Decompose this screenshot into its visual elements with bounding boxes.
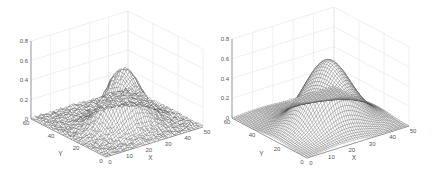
z-tick-label: 0.2 [221,95,230,101]
x-axis-label: X [352,154,357,161]
surface-mesh [31,67,203,157]
z-tick-label: 0.8 [221,36,230,42]
surface-plot-left: 00.20.40.60.8010203040500204060XY [20,11,211,165]
z-tick-label: 0.2 [20,97,29,103]
y-tick-label: 60 [23,120,30,126]
y-tick-label: 0 [300,159,304,165]
y-tick-label: 0 [99,158,103,164]
y-tick-label: 40 [249,132,256,138]
x-tick-label: 10 [328,154,335,160]
y-axis-label: Y [259,150,264,157]
x-tick-label: 20 [348,147,355,153]
x-tick-label: 30 [369,141,376,147]
x-tick-label: 30 [165,141,172,147]
z-tick-label: 0.6 [221,56,230,62]
x-tick-label: 40 [184,135,191,141]
x-tick-label: 50 [410,128,417,134]
z-tick-label: 0.6 [20,58,29,64]
x-axis-label: X [148,154,153,161]
z-tick-label: 0.8 [20,38,29,44]
x-tick-label: 40 [389,134,396,140]
x-tick-label: 20 [145,147,152,153]
surface-plot-right: 00.20.40.60.8010203040500204060XY [221,7,417,166]
y-axis-label: Y [58,150,63,157]
z-tick-label: 0.4 [20,77,29,83]
y-tick-label: 60 [224,119,231,125]
y-tick-label: 40 [48,133,55,139]
x-tick-label: 0 [108,159,112,165]
x-tick-label: 50 [204,129,211,135]
y-tick-label: 20 [73,145,80,151]
z-tick-label: 0.4 [221,76,230,82]
surface-mesh [232,59,409,157]
y-tick-label: 20 [274,146,281,152]
x-tick-label: 0 [309,160,313,166]
x-tick-label: 10 [126,153,133,159]
surface-plots-figure: 00.20.40.60.8010203040500204060XY 00.20.… [0,0,432,179]
